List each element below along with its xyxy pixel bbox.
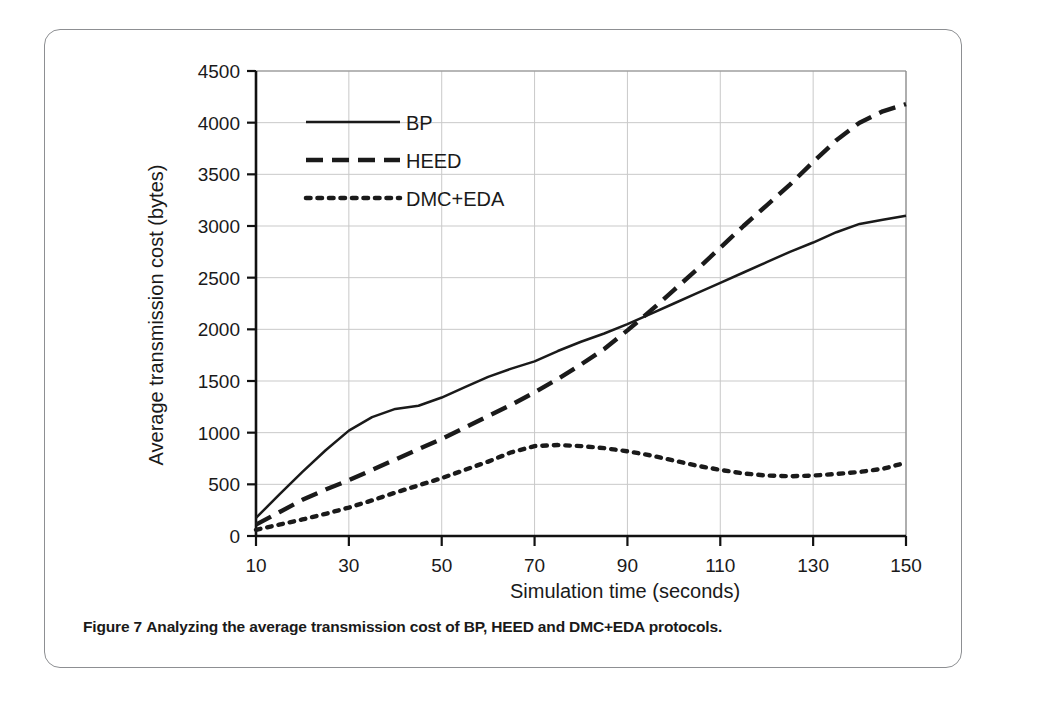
figure-card: 050010001500200025003000350040004500 103…	[44, 29, 962, 668]
chart-legend: BPHEEDDMC+EDA	[306, 112, 505, 210]
y-tick-label: 1000	[198, 423, 240, 444]
figure-caption-label: Figure 7	[83, 618, 142, 635]
y-axis-tick-labels: 050010001500200025003000350040004500	[198, 61, 240, 547]
legend-label-dmc-eda: DMC+EDA	[406, 188, 505, 210]
x-axis-title: Simulation time (seconds)	[510, 580, 740, 602]
legend-label-bp: BP	[406, 112, 433, 134]
x-tick-label: 70	[524, 555, 545, 576]
y-tick-label: 0	[229, 526, 240, 547]
legend-label-heed: HEED	[406, 150, 462, 172]
x-tick-label: 30	[338, 555, 359, 576]
y-tick-label: 2000	[198, 319, 240, 340]
x-tick-label: 130	[797, 555, 829, 576]
series-line-dmc-eda	[256, 445, 906, 530]
x-tick-label: 10	[245, 555, 266, 576]
series-line-heed	[256, 104, 906, 525]
x-tick-label: 50	[431, 555, 452, 576]
y-tick-label: 3000	[198, 216, 240, 237]
y-tick-label: 2500	[198, 268, 240, 289]
grid-lines	[256, 71, 906, 536]
y-tick-label: 3500	[198, 164, 240, 185]
data-series-lines	[256, 104, 906, 530]
y-tick-label: 1500	[198, 371, 240, 392]
chart-plot-area: 050010001500200025003000350040004500 103…	[45, 30, 963, 605]
y-tick-label: 500	[208, 474, 240, 495]
figure-caption: Figure 7 Analyzing the average transmiss…	[83, 618, 933, 637]
series-line-bp	[256, 216, 906, 518]
y-tick-label: 4000	[198, 113, 240, 134]
y-tick-label: 4500	[198, 61, 240, 82]
figure-caption-text: Analyzing the average transmission cost …	[146, 618, 722, 635]
transmission-cost-line-chart: 050010001500200025003000350040004500 103…	[45, 30, 963, 605]
x-axis-tick-labels: 1030507090110130150	[245, 555, 921, 576]
x-tick-label: 110	[705, 555, 735, 576]
x-tick-label: 150	[890, 555, 922, 576]
y-axis-title: Average transmission cost (bytes)	[145, 165, 167, 466]
x-tick-label: 90	[617, 555, 638, 576]
axis-lines	[256, 71, 906, 536]
